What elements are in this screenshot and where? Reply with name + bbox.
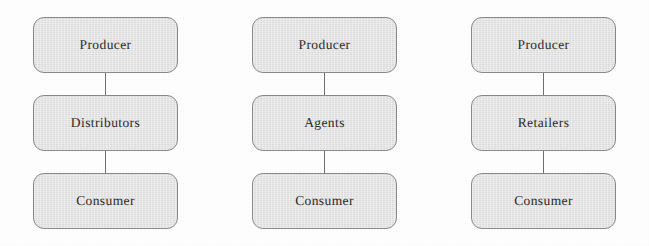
node-label: Retailers bbox=[518, 116, 570, 130]
connector-producer-to-intermediary bbox=[324, 73, 326, 95]
connector-intermediary-to-consumer bbox=[543, 151, 545, 173]
node-label: Producer bbox=[299, 38, 351, 52]
channel-distributors: Producer Distributors Consumer bbox=[33, 17, 178, 229]
node-label: Distributors bbox=[71, 116, 140, 130]
node-consumer[interactable]: Consumer bbox=[471, 173, 616, 229]
node-retailers[interactable]: Retailers bbox=[471, 95, 616, 151]
node-producer[interactable]: Producer bbox=[252, 17, 397, 73]
node-label: Producer bbox=[80, 38, 132, 52]
connector-producer-to-intermediary bbox=[105, 73, 107, 95]
channel-retailers: Producer Retailers Consumer bbox=[471, 17, 616, 229]
node-label: Consumer bbox=[295, 194, 354, 208]
node-label: Consumer bbox=[76, 194, 135, 208]
node-label: Producer bbox=[518, 38, 570, 52]
connector-producer-to-intermediary bbox=[543, 73, 545, 95]
node-label: Consumer bbox=[514, 194, 573, 208]
connector-intermediary-to-consumer bbox=[105, 151, 107, 173]
node-agents[interactable]: Agents bbox=[252, 95, 397, 151]
node-consumer[interactable]: Consumer bbox=[33, 173, 178, 229]
node-distributors[interactable]: Distributors bbox=[33, 95, 178, 151]
node-label: Agents bbox=[304, 116, 345, 130]
connector-intermediary-to-consumer bbox=[324, 151, 326, 173]
distribution-channel-diagram: Producer Distributors Consumer Producer … bbox=[0, 0, 649, 246]
node-producer[interactable]: Producer bbox=[33, 17, 178, 73]
channel-agents: Producer Agents Consumer bbox=[252, 17, 397, 229]
node-consumer[interactable]: Consumer bbox=[252, 173, 397, 229]
node-producer[interactable]: Producer bbox=[471, 17, 616, 73]
